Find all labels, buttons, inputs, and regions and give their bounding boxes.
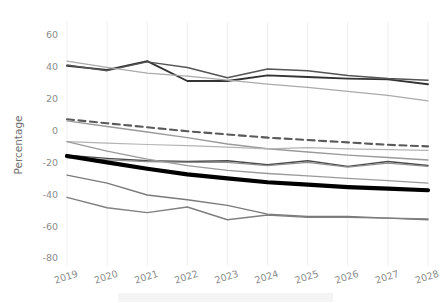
series-line-dashed-projection xyxy=(67,119,428,146)
x-tick-label: 2020 xyxy=(93,268,119,286)
x-tick-label: 2027 xyxy=(374,268,400,286)
x-tick-label: 2021 xyxy=(133,268,159,286)
y-axis-title: Percentage xyxy=(12,115,24,174)
chart-container: 6040200-20-40-60-80 20192020202120222023… xyxy=(0,0,441,303)
x-tick-label: 2026 xyxy=(333,268,359,286)
y-tick-label: -20 xyxy=(42,157,58,168)
y-tick-label: -60 xyxy=(42,221,58,232)
x-axis-tick-labels: 2019202020212022202320242025202620272028 xyxy=(53,268,440,286)
y-tick-label: -80 xyxy=(42,252,58,263)
y-tick-label: -40 xyxy=(42,189,58,200)
x-tick-label: 2025 xyxy=(293,268,319,286)
x-tick-label: 2022 xyxy=(173,268,199,286)
y-axis-tick-labels: 6040200-20-40-60-80 xyxy=(42,29,58,263)
y-tick-label: 60 xyxy=(46,29,58,40)
series-line-lower-gray-c xyxy=(67,197,428,219)
x-tick-label: 2023 xyxy=(213,268,239,286)
y-tick-label: 40 xyxy=(46,61,58,72)
y-tick-label: 0 xyxy=(52,125,58,136)
x-tick-label: 2019 xyxy=(53,268,79,286)
x-tick-label: 2024 xyxy=(253,268,279,286)
line-chart-svg: 6040200-20-40-60-80 20192020202120222023… xyxy=(0,0,441,303)
y-tick-label: 20 xyxy=(46,93,58,104)
data-series-group xyxy=(67,61,428,220)
legend-strip-partial xyxy=(118,293,333,302)
series-line-upper-dark-a xyxy=(67,61,428,84)
x-tick-label: 2028 xyxy=(414,268,440,286)
